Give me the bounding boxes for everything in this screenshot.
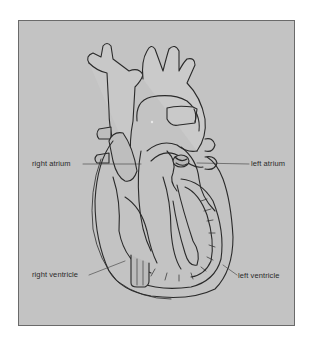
label-right-atrium: right atrium — [32, 159, 71, 168]
label-left-ventricle: left ventricle — [238, 271, 279, 280]
heart-illustration — [19, 21, 296, 327]
heart-diagram-panel: right atrium left atrium right ventricle… — [18, 20, 295, 326]
label-left-atrium: left atrium — [251, 159, 285, 168]
label-right-ventricle: right ventricle — [32, 270, 78, 279]
